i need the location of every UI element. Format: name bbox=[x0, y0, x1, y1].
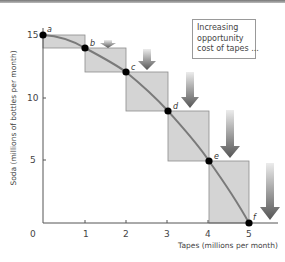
point-b bbox=[81, 44, 88, 51]
down-arrow-icon bbox=[260, 163, 280, 220]
point-label-a: a bbox=[47, 25, 52, 34]
y-tick-5: 5 bbox=[30, 155, 36, 165]
point-label-b: b bbox=[90, 39, 95, 48]
origin-label: 0 bbox=[30, 229, 36, 239]
point-c bbox=[122, 68, 129, 75]
down-arrow-icon bbox=[181, 72, 199, 108]
y-tick-15: 15 bbox=[27, 30, 38, 40]
annotation-line-3: cost of tapes ... bbox=[197, 44, 255, 55]
x-tick-1: 1 bbox=[83, 229, 89, 239]
down-arrow-icon bbox=[100, 40, 116, 48]
point-d bbox=[164, 107, 171, 114]
point-label-f: f bbox=[253, 213, 257, 222]
annotation-box: Increasing opportunity cost of tapes ... bbox=[192, 19, 256, 59]
point-label-e: e bbox=[214, 152, 219, 161]
annotation-line-1: Increasing bbox=[197, 23, 255, 34]
y-axis-title: Soda (millions of bottles per month) bbox=[9, 50, 18, 185]
y-tick-10: 10 bbox=[27, 93, 39, 103]
x-tick-5: 5 bbox=[246, 229, 252, 239]
x-tick-2: 2 bbox=[123, 229, 129, 239]
point-label-d: d bbox=[173, 102, 179, 111]
x-tick-3: 3 bbox=[164, 229, 170, 239]
annotation-line-2: opportunity bbox=[197, 34, 255, 45]
down-arrow-icon bbox=[138, 49, 156, 70]
step-box-a-b bbox=[43, 35, 85, 48]
x-tick-4: 4 bbox=[205, 229, 211, 239]
point-a bbox=[39, 31, 46, 38]
point-f bbox=[245, 219, 252, 226]
point-label-c: c bbox=[131, 63, 136, 72]
x-axis-title: Tapes (millions per month) bbox=[177, 241, 278, 250]
down-arrow-icon bbox=[220, 110, 240, 158]
point-e bbox=[205, 157, 212, 164]
